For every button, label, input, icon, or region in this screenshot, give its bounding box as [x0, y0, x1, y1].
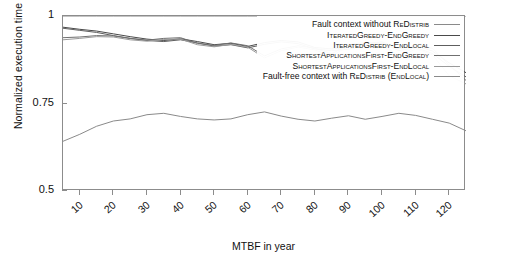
x-tick-mark [415, 190, 416, 195]
legend-swatch [434, 51, 460, 59]
x-tick-label: 100 [357, 199, 387, 228]
legend-swatch [434, 20, 460, 28]
legend-item: Fault-free context with ReDistrib (EndLo… [263, 71, 460, 81]
x-tick-mark [280, 190, 281, 195]
legend-item-label: ShortestApplicationsFirst-EndLocal [292, 61, 429, 71]
legend-swatch [434, 41, 460, 49]
series-line-5 [63, 112, 466, 141]
legend-item-label: IteratedGreedy-EndLocal [333, 40, 429, 50]
y-tick-label: 0.5 [14, 183, 54, 195]
x-tick-label: 90 [323, 199, 353, 228]
x-tick-mark [146, 190, 147, 195]
x-tick-label: 50 [189, 199, 219, 228]
x-tick-mark [448, 190, 449, 195]
x-tick-mark [213, 190, 214, 195]
x-tick-mark [247, 190, 248, 195]
x-tick-label: 20 [88, 199, 118, 228]
x-tick-label: 80 [290, 199, 320, 228]
x-tick-label: 30 [122, 199, 152, 228]
x-tick-mark [79, 190, 80, 195]
x-tick-mark [314, 190, 315, 195]
legend-swatch [434, 62, 460, 70]
y-tick-label: 1 [14, 8, 54, 20]
x-tick-mark [180, 190, 181, 195]
x-tick-label: 60 [222, 199, 252, 228]
x-axis-title: MTBF in year [62, 240, 465, 252]
y-tick-mark [62, 190, 67, 191]
x-tick-label: 120 [424, 199, 454, 228]
plot-area: Fault context without ReDistribIteratedG… [62, 15, 465, 190]
chart-legend: Fault context without ReDistribIteratedG… [257, 16, 464, 84]
x-tick-label: 10 [54, 199, 84, 228]
y-axis-title: Normalized execution time [12, 0, 24, 156]
legend-item: Fault context without ReDistrib [263, 19, 460, 29]
legend-swatch [434, 72, 460, 80]
legend-swatch [434, 31, 460, 39]
y-tick-label: 0.75 [14, 96, 54, 108]
y-tick-mark [62, 103, 67, 104]
x-tick-label: 40 [155, 199, 185, 228]
legend-item-label: Fault-free context with ReDistrib (EndLo… [263, 71, 429, 81]
legend-item-label: IteratedGreedy-EndGreedy [327, 30, 429, 40]
x-tick-label: 110 [390, 199, 420, 228]
legend-item: ShortestApplicationsFirst-EndLocal [263, 61, 460, 71]
legend-item-label: Fault context without ReDistrib [312, 19, 429, 29]
chart-root: Normalized execution time Fault context … [0, 0, 512, 269]
x-tick-mark [381, 190, 382, 195]
x-tick-label: 70 [256, 199, 286, 228]
legend-item: IteratedGreedy-EndLocal [263, 40, 460, 50]
legend-item: IteratedGreedy-EndGreedy [263, 29, 460, 39]
x-tick-mark [347, 190, 348, 195]
y-tick-mark [62, 15, 67, 16]
x-tick-mark [112, 190, 113, 195]
legend-item-label: ShortestApplicationsFirst-EndGreedy [286, 50, 429, 60]
legend-item: ShortestApplicationsFirst-EndGreedy [263, 50, 460, 60]
